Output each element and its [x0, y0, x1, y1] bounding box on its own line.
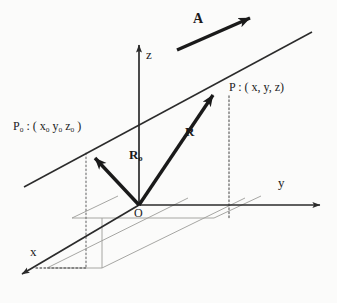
vector-R0-label: Ro — [129, 148, 142, 163]
projection-edge-left — [72, 196, 118, 218]
projection-diagonal-lower — [102, 198, 245, 268]
vector-R0-label-main: R — [129, 147, 138, 162]
projection-edge-right — [214, 196, 261, 218]
vector-R — [139, 95, 213, 205]
vector-R-label: R — [185, 125, 194, 138]
axis-z-label: z — [146, 48, 152, 61]
diagram-canvas: A z y x O R Ro P : ( x, y, z) Po : ( xo … — [0, 0, 337, 303]
vectors — [95, 18, 250, 205]
axis-x — [22, 205, 139, 274]
point-P0-label: Po : ( xo yo zo ) — [13, 120, 81, 133]
vector-A-label: A — [193, 12, 203, 26]
xy-plane-projection — [47, 196, 261, 268]
axis-y-label: y — [278, 176, 285, 189]
point-P0-label-close: ) — [74, 119, 81, 133]
figure-svg — [0, 0, 337, 303]
vector-A — [177, 18, 250, 50]
vector-R0-label-subscript: o — [138, 154, 142, 163]
point-P0-label-mid-z: z — [62, 119, 70, 133]
point-P0-label-open: : ( x — [23, 119, 45, 133]
vector-R0 — [95, 158, 139, 205]
origin-label: O — [134, 207, 143, 219]
axis-x-label: x — [30, 245, 37, 258]
projection-diagonal-upper — [47, 198, 188, 268]
point-P-label: P : ( x, y, z) — [229, 81, 284, 93]
point-P0-label-main: P — [13, 119, 20, 133]
